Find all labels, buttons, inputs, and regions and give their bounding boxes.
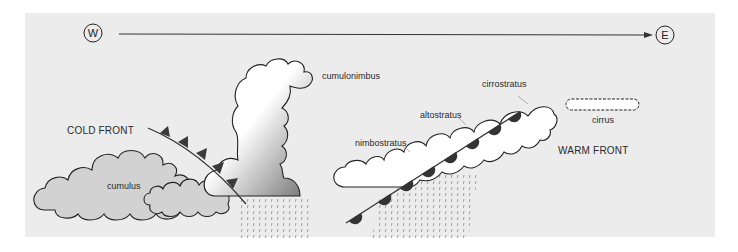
east-label: E bbox=[656, 26, 674, 44]
warm-front-label: WARM FRONT bbox=[558, 146, 629, 156]
west-label: W bbox=[84, 24, 102, 42]
cirrostratus-label: cirrostratus bbox=[482, 80, 527, 89]
nimbostratus-label: nimbostratus bbox=[355, 139, 407, 148]
direction-arrow bbox=[84, 24, 674, 44]
cold-front-label: COLD FRONT bbox=[67, 126, 134, 136]
cirrus-label: cirrus bbox=[592, 116, 614, 125]
altostratus-label: altostratus bbox=[420, 111, 462, 120]
cumulonimbus-label: cumulonimbus bbox=[322, 72, 380, 81]
cumulus-label: cumulus bbox=[107, 182, 141, 191]
arrowhead-icon bbox=[644, 32, 653, 38]
cumulonimbus-cloud bbox=[204, 59, 312, 196]
cirrus-cloud bbox=[566, 99, 639, 110]
rain-cold-front bbox=[240, 196, 310, 240]
